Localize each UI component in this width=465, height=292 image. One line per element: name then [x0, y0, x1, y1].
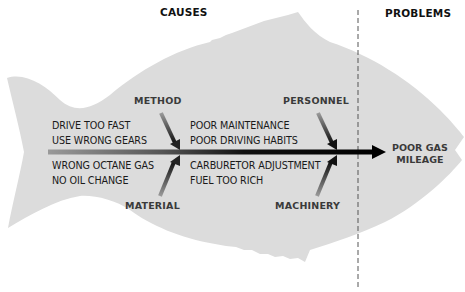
cause-item: WRONG OCTANE GAS — [52, 158, 154, 173]
cause-item: NO OIL CHANGE — [52, 173, 154, 188]
problem-statement: POOR GAS MILEAGE — [392, 142, 448, 166]
cause-group-material: WRONG OCTANE GAS NO OIL CHANGE — [52, 158, 154, 188]
cause-item: DRIVE TOO FAST — [52, 118, 147, 133]
cause-item: FUEL TOO RICH — [190, 173, 320, 188]
problems-header: PROBLEMS — [385, 7, 451, 19]
cause-group-personnel: POOR MAINTENANCE POOR DRIVING HABITS — [190, 118, 298, 148]
bone-label-machinery: MACHINERY — [275, 200, 340, 211]
cause-group-machinery: CARBURETOR ADJUSTMENT FUEL TOO RICH — [190, 158, 320, 188]
bone-label-method: METHOD — [134, 95, 182, 106]
cause-item: USE WRONG GEARS — [52, 133, 147, 148]
problem-line: MILEAGE — [392, 154, 448, 166]
cause-item: POOR DRIVING HABITS — [190, 133, 298, 148]
causes-header: CAUSES — [160, 6, 208, 18]
fishbone-diagram: CAUSES PROBLEMS METHOD PERSONNEL MATERIA… — [0, 0, 465, 292]
cause-item: POOR MAINTENANCE — [190, 118, 298, 133]
problem-line: POOR GAS — [392, 142, 448, 154]
bone-label-material: MATERIAL — [125, 200, 180, 211]
spine — [48, 150, 374, 155]
cause-item: CARBURETOR ADJUSTMENT — [190, 158, 320, 173]
cause-group-method: DRIVE TOO FAST USE WRONG GEARS — [52, 118, 147, 148]
bone-label-personnel: PERSONNEL — [283, 95, 349, 106]
